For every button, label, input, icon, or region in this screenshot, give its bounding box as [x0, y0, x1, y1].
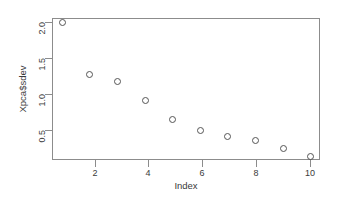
x-tick-label: 10	[295, 168, 325, 178]
x-tick-mark	[310, 160, 311, 167]
x-tick-label: 8	[241, 168, 271, 178]
scatter-plot-figure: 2.0 1.5 1.0 0.5 2 4 6 8 10 Index Xpca$sd…	[0, 0, 337, 198]
x-tick-mark	[256, 160, 257, 167]
plot-area-frame	[52, 18, 320, 160]
y-tick-label: 2.0	[37, 22, 47, 35]
x-tick-mark	[95, 160, 96, 167]
y-tick-label: 0.5	[37, 130, 47, 143]
y-tick-label: 1.5	[37, 58, 47, 71]
x-tick-label: 2	[80, 168, 110, 178]
y-axis-title: Xpca$sdev	[17, 65, 28, 112]
x-axis-title: Index	[52, 180, 320, 191]
y-tick-label: 1.0	[37, 94, 47, 107]
x-tick-mark	[148, 160, 149, 167]
x-tick-label: 6	[187, 168, 217, 178]
x-tick-mark	[202, 160, 203, 167]
x-tick-label: 4	[133, 168, 163, 178]
